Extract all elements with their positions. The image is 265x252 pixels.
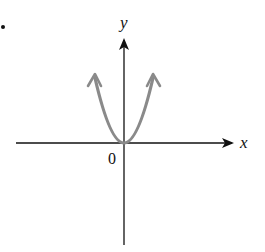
graph-canvas: y x 0: [0, 0, 265, 252]
y-axis-label: y: [118, 13, 128, 32]
bullet-dot: [1, 25, 5, 29]
origin-label: 0: [108, 150, 116, 167]
x-axis-label: x: [239, 133, 248, 152]
